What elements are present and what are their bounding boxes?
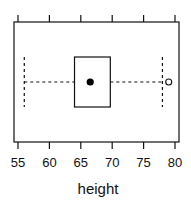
tick-label: 65 xyxy=(74,155,88,170)
bottom-axis-ticks xyxy=(18,142,175,149)
tick-label: 80 xyxy=(168,155,182,170)
box-plot-chart: 556065707580 height xyxy=(0,0,191,207)
top-axis-ticks xyxy=(18,15,175,22)
tick-label: 70 xyxy=(105,155,119,170)
tick-label: 60 xyxy=(42,155,56,170)
x-axis-tick-labels: 556065707580 xyxy=(11,155,182,170)
x-axis-title: height xyxy=(78,180,120,197)
tick-label: 55 xyxy=(11,155,25,170)
tick-label: 75 xyxy=(136,155,150,170)
outlier-point xyxy=(166,79,172,85)
median-dot xyxy=(87,78,94,85)
box-elements xyxy=(24,57,171,107)
